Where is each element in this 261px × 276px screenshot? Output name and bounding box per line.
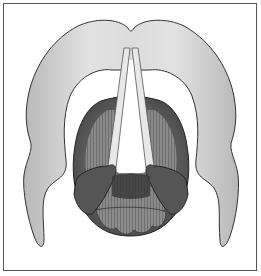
interarytenoid-region: [112, 173, 150, 199]
larynx-illustration: [0, 0, 261, 276]
